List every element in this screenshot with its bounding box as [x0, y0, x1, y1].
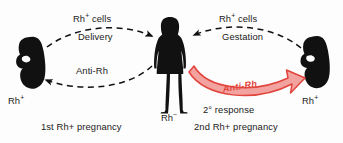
- fetus-silhouette-left: [16, 37, 45, 89]
- label-fetus-rh-positive-right: Rh+: [302, 96, 318, 106]
- label-rh-positive-cells-left: Rh+ cells: [73, 14, 111, 24]
- label-anti-rh-left: Anti-Rh: [76, 66, 108, 76]
- label-mother-rh-negative: Rh−: [161, 113, 177, 123]
- label-secondary-response: 2° response: [203, 105, 254, 115]
- mother-silhouette: [154, 17, 188, 114]
- rh-incompatibility-diagram: Rh+ cells Delivery Anti-Rh Rh+ 1st Rh+ p…: [0, 0, 343, 143]
- caption-first-pregnancy: 1st Rh+ pregnancy: [41, 122, 122, 132]
- caption-second-pregnancy: 2nd Rh+ pregnancy: [194, 122, 278, 132]
- label-fetus-rh-positive-left: Rh+: [8, 96, 24, 106]
- label-rh-positive-cells-right: Rh+ cells: [219, 14, 257, 24]
- label-delivery: Delivery: [78, 32, 113, 42]
- fetus-silhouette-right: [300, 36, 329, 88]
- label-gestation: Gestation: [222, 32, 263, 42]
